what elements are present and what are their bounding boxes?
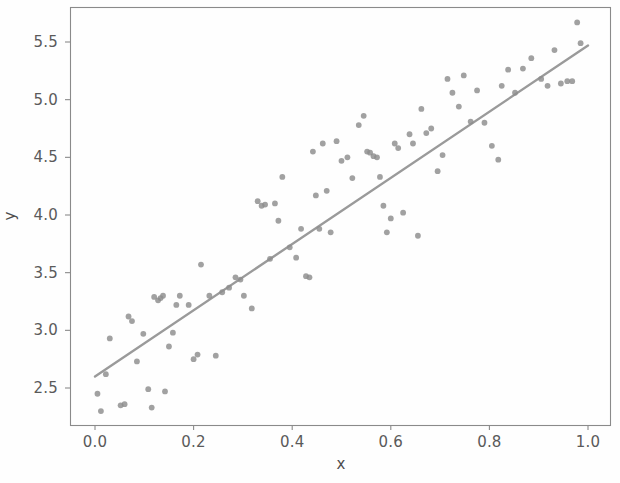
y-tick-label: 5.5: [20, 33, 58, 51]
y-tick-label: 3.5: [20, 264, 58, 282]
x-tick-label: 0.4: [280, 433, 304, 451]
x-tick-label: 0.6: [379, 433, 403, 451]
y-axis-title: y: [1, 212, 19, 221]
scatter-plot-figure: 2.53.03.54.04.55.05.5 0.00.20.40.60.81.0…: [0, 0, 620, 483]
x-tick-label: 1.0: [576, 433, 600, 451]
x-tick-label: 0.2: [181, 433, 205, 451]
x-tick-label: 0.8: [477, 433, 501, 451]
x-tick-label: 0.0: [83, 433, 107, 451]
y-tick-label: 3.0: [20, 321, 58, 339]
x-axis-title: x: [337, 455, 346, 473]
plot-canvas: [0, 0, 620, 483]
y-tick-label: 5.0: [20, 91, 58, 109]
scatter-points: [95, 19, 584, 413]
y-tick-label: 2.5: [20, 379, 58, 397]
y-tick-label: 4.5: [20, 148, 58, 166]
plot-frame: [71, 8, 611, 426]
y-tick-label: 4.0: [20, 206, 58, 224]
axis-ticks: [65, 42, 588, 430]
